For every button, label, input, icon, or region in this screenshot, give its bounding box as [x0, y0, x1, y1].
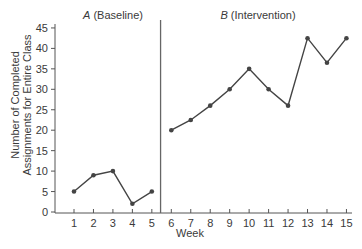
y-axis-title: Number of Completed Assignments for Enti… [9, 34, 33, 176]
single-subject-ab-line-chart: A (Baseline) B (Intervention) Number of … [0, 0, 362, 249]
y-tick-label: 20 [36, 124, 48, 136]
y-axis-title-line1: Number of Completed [9, 51, 21, 159]
x-tick-label: 5 [149, 217, 155, 229]
y-tick-label: 25 [36, 104, 48, 116]
y-tick-label: 0 [42, 206, 48, 218]
y-axis-title-line2: Assignments for Entire Class [21, 34, 33, 176]
x-tick-label: 9 [227, 217, 233, 229]
data-point-marker [72, 189, 77, 194]
data-point-marker [150, 189, 155, 194]
x-tick-label: 2 [90, 217, 96, 229]
phase-a-label: A (Baseline) [82, 9, 143, 21]
y-tick-label: 45 [36, 22, 48, 34]
x-tick-label: 14 [321, 217, 333, 229]
x-tick-label: 12 [282, 217, 294, 229]
y-tick-label: 40 [36, 42, 48, 54]
phase-b-label: B (Intervention) [220, 9, 295, 21]
data-point-marker [188, 118, 193, 123]
data-point-marker [286, 103, 291, 108]
data-point-marker [111, 169, 116, 174]
phase-labels: A (Baseline) B (Intervention) [82, 9, 296, 21]
x-tick-label: 11 [263, 217, 274, 229]
axes: 051015202530354045123456789101112131415 [36, 22, 353, 229]
data-point-marker [208, 103, 213, 108]
data-point-marker [169, 128, 174, 133]
x-tick-label: 1 [71, 217, 77, 229]
x-tick-label: 4 [129, 217, 135, 229]
series-line-intervention [171, 38, 346, 130]
y-tick-label: 15 [36, 145, 48, 157]
x-tick-label: 10 [243, 217, 255, 229]
data-point-marker [130, 202, 135, 207]
x-tick-label: 15 [340, 217, 352, 229]
x-tick-label: 8 [207, 217, 213, 229]
data-series [72, 36, 349, 206]
data-point-marker [266, 87, 271, 92]
data-point-marker [227, 87, 232, 92]
data-point-marker [91, 173, 96, 178]
data-point-marker [344, 36, 349, 41]
series-line-baseline [74, 171, 152, 204]
y-tick-label: 10 [36, 165, 48, 177]
y-tick-label: 5 [42, 186, 48, 198]
x-tick-label: 13 [301, 217, 313, 229]
y-tick-label: 35 [36, 63, 48, 75]
data-point-marker [305, 36, 310, 41]
data-point-marker [325, 60, 330, 65]
x-tick-label: 3 [110, 217, 116, 229]
y-tick-label: 30 [36, 83, 48, 95]
x-axis-title: Week [176, 227, 204, 239]
x-tick-label: 6 [168, 217, 174, 229]
data-point-marker [247, 67, 252, 72]
